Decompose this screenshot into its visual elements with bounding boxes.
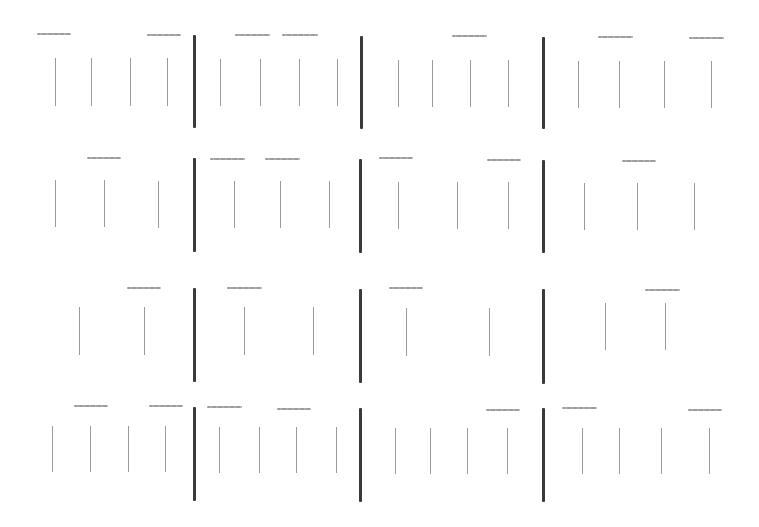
thin-vertical-stroke <box>430 428 431 474</box>
thick-divider-line <box>542 408 545 502</box>
dash-label-mark <box>127 287 161 289</box>
thin-vertical-stroke <box>144 307 145 355</box>
thin-vertical-stroke <box>91 58 92 106</box>
thin-vertical-stroke <box>130 58 131 106</box>
thin-vertical-stroke <box>90 426 91 472</box>
dash-label-mark <box>87 157 121 159</box>
thin-vertical-stroke <box>398 60 399 107</box>
dash-label-mark <box>487 159 521 161</box>
thick-divider-line <box>542 289 545 384</box>
thin-vertical-stroke <box>79 307 80 355</box>
dash-label-mark <box>622 160 656 162</box>
dash-label-mark <box>389 287 423 289</box>
thick-divider-line <box>542 37 545 129</box>
thin-vertical-stroke <box>432 60 433 107</box>
dash-label-mark <box>227 287 262 289</box>
dash-label-mark <box>210 158 245 160</box>
thin-vertical-stroke <box>578 61 579 108</box>
thick-divider-line <box>193 288 196 382</box>
thick-divider-line <box>193 407 196 501</box>
thin-vertical-stroke <box>234 181 235 228</box>
thin-vertical-stroke <box>457 182 458 229</box>
thin-vertical-stroke <box>395 428 396 474</box>
thin-vertical-stroke <box>619 61 620 108</box>
thick-divider-line <box>360 36 363 129</box>
thick-divider-line <box>359 408 362 502</box>
dash-label-mark <box>688 409 722 411</box>
thin-vertical-stroke <box>128 426 129 472</box>
dash-label-mark <box>645 289 680 291</box>
thin-vertical-stroke <box>219 427 220 473</box>
thin-vertical-stroke <box>582 428 583 474</box>
dash-label-mark <box>74 405 108 407</box>
dash-label-mark <box>149 405 183 407</box>
thin-vertical-stroke <box>709 428 710 474</box>
thin-vertical-stroke <box>296 427 297 473</box>
thin-vertical-stroke <box>260 59 261 106</box>
dash-label-mark <box>452 35 487 37</box>
thin-vertical-stroke <box>665 303 666 350</box>
dash-label-mark <box>282 34 318 36</box>
thin-vertical-stroke <box>158 181 159 228</box>
thin-vertical-stroke <box>299 59 300 106</box>
thick-divider-line <box>193 35 196 128</box>
thin-vertical-stroke <box>337 59 338 106</box>
dash-label-mark <box>277 408 311 410</box>
thin-vertical-stroke <box>220 59 221 106</box>
thin-vertical-stroke <box>584 183 585 230</box>
dash-label-mark <box>598 36 633 38</box>
thin-vertical-stroke <box>406 308 407 356</box>
thin-vertical-stroke <box>605 303 606 350</box>
thin-vertical-stroke <box>507 428 508 474</box>
dash-label-mark <box>207 406 242 408</box>
thin-vertical-stroke <box>508 182 509 229</box>
thin-vertical-stroke <box>165 426 166 472</box>
thin-vertical-stroke <box>313 307 314 355</box>
thin-vertical-stroke <box>259 427 260 473</box>
line-grid-canvas <box>0 0 759 527</box>
thin-vertical-stroke <box>329 181 330 228</box>
thin-vertical-stroke <box>167 58 168 106</box>
dash-label-mark <box>689 37 724 39</box>
dash-label-mark <box>37 33 71 35</box>
thin-vertical-stroke <box>489 308 490 356</box>
thin-vertical-stroke <box>336 427 337 473</box>
thin-vertical-stroke <box>55 180 56 227</box>
dash-label-mark <box>147 34 181 36</box>
thin-vertical-stroke <box>467 428 468 474</box>
dash-label-mark <box>235 34 270 36</box>
thin-vertical-stroke <box>508 60 509 107</box>
thin-vertical-stroke <box>661 428 662 474</box>
dash-label-mark <box>486 409 520 411</box>
thin-vertical-stroke <box>244 307 245 355</box>
thin-vertical-stroke <box>398 182 399 229</box>
dash-label-mark <box>379 157 413 159</box>
thick-divider-line <box>542 160 545 253</box>
thin-vertical-stroke <box>55 58 56 106</box>
dash-label-mark <box>265 158 300 160</box>
thin-vertical-stroke <box>104 180 105 227</box>
thick-divider-line <box>193 158 196 252</box>
dash-label-mark <box>562 407 597 409</box>
thin-vertical-stroke <box>470 60 471 107</box>
thick-divider-line <box>359 159 362 253</box>
thin-vertical-stroke <box>52 426 53 472</box>
thin-vertical-stroke <box>711 61 712 108</box>
thin-vertical-stroke <box>619 428 620 474</box>
thin-vertical-stroke <box>664 61 665 108</box>
thin-vertical-stroke <box>637 183 638 230</box>
thin-vertical-stroke <box>694 183 695 230</box>
thin-vertical-stroke <box>280 181 281 228</box>
thick-divider-line <box>359 289 362 383</box>
